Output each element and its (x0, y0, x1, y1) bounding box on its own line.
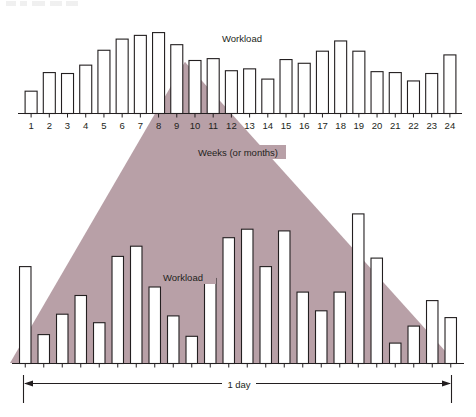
top-bar-14 (262, 79, 274, 113)
top-tick-label-16: 16 (299, 120, 310, 131)
top-tick-label-2: 2 (47, 120, 52, 131)
bottom-bar-21 (390, 343, 401, 363)
workload-figure-svg: 123456789101112131415161718192021222324 … (0, 0, 476, 417)
bottom-bar-1 (20, 267, 31, 364)
top-bar-11 (207, 59, 219, 114)
top-bar-13 (244, 69, 256, 114)
top-tick-label-23: 23 (426, 120, 437, 131)
top-bar-24 (444, 55, 456, 114)
figure-container: 123456789101112131415161718192021222324 … (0, 0, 476, 417)
bottom-chart-workload-label: Workload (163, 272, 203, 283)
bottom-bar-23 (427, 301, 438, 364)
bottom-bar-5 (94, 323, 105, 364)
span-arrowhead-right (442, 380, 451, 386)
top-bar-9 (171, 45, 183, 114)
top-bar-16 (298, 63, 310, 113)
top-chart-bars (25, 33, 456, 114)
top-bar-7 (134, 35, 146, 113)
bottom-bar-15 (279, 231, 290, 364)
bottom-bar-24 (445, 318, 456, 364)
top-tick-label-22: 22 (408, 120, 419, 131)
bottom-bar-12 (223, 238, 234, 364)
top-chart-axis-label: Weeks (or months) (198, 147, 278, 158)
top-bar-17 (316, 51, 328, 113)
bottom-bar-17 (316, 311, 327, 364)
top-tick-label-20: 20 (372, 120, 383, 131)
top-bar-4 (80, 65, 92, 113)
top-bar-19 (353, 51, 365, 113)
top-bar-12 (225, 71, 237, 114)
bottom-bar-3 (57, 314, 68, 363)
bottom-bar-18 (334, 292, 345, 363)
top-bar-5 (98, 50, 110, 113)
top-tick-label-8: 8 (156, 120, 161, 131)
bottom-bar-6 (112, 256, 123, 363)
top-tick-label-15: 15 (281, 120, 292, 131)
top-tick-label-24: 24 (445, 120, 456, 131)
top-tick-label-3: 3 (65, 120, 70, 131)
top-tick-label-1: 1 (28, 120, 33, 131)
bottom-bar-20 (371, 258, 382, 363)
bottom-bar-13 (242, 229, 253, 363)
top-bar-6 (116, 39, 128, 113)
bottom-bar-22 (408, 326, 419, 363)
top-bar-15 (280, 60, 292, 114)
one-day-span-indicator: 1 day (24, 375, 452, 403)
top-tick-label-7: 7 (138, 120, 143, 131)
bottom-bar-10 (186, 336, 197, 363)
top-tick-label-5: 5 (101, 120, 106, 131)
top-bar-2 (43, 73, 55, 114)
bottom-bar-7 (131, 246, 142, 363)
bottom-bar-16 (297, 292, 308, 363)
top-tick-label-13: 13 (244, 120, 255, 131)
top-bar-8 (153, 33, 165, 114)
page-edge-artifact (6, 1, 84, 6)
top-tick-label-4: 4 (83, 120, 88, 131)
top-chart-ticks (31, 114, 450, 118)
bottom-chart-ticks (25, 364, 451, 368)
top-chart-workload-label: Workload (222, 33, 262, 44)
bottom-bar-19 (353, 214, 364, 364)
bottom-bar-8 (149, 287, 160, 364)
top-bar-1 (25, 91, 37, 113)
top-tick-label-9: 9 (174, 120, 179, 131)
top-bar-21 (389, 73, 401, 114)
top-tick-label-19: 19 (354, 120, 365, 131)
bottom-bar-2 (38, 335, 49, 364)
bottom-bar-14 (260, 267, 271, 364)
bottom-bar-4 (75, 296, 86, 364)
top-bar-3 (62, 74, 74, 114)
top-tick-label-21: 21 (390, 120, 401, 131)
top-bar-23 (426, 74, 438, 114)
top-tick-label-14: 14 (263, 120, 274, 131)
top-tick-label-11: 11 (208, 120, 218, 131)
top-tick-label-10: 10 (190, 120, 201, 131)
top-tick-label-6: 6 (120, 120, 125, 131)
top-tick-label-12: 12 (226, 120, 237, 131)
top-bar-20 (371, 72, 383, 114)
top-bar-18 (335, 41, 347, 114)
bottom-bar-11 (205, 279, 216, 364)
span-arrowhead-left (24, 380, 33, 386)
top-tick-label-17: 17 (317, 120, 328, 131)
bottom-bar-9 (168, 316, 179, 364)
one-day-label: 1 day (227, 379, 250, 390)
top-bar-10 (189, 60, 201, 113)
top-bar-22 (407, 81, 419, 114)
top-tick-label-18: 18 (335, 120, 346, 131)
